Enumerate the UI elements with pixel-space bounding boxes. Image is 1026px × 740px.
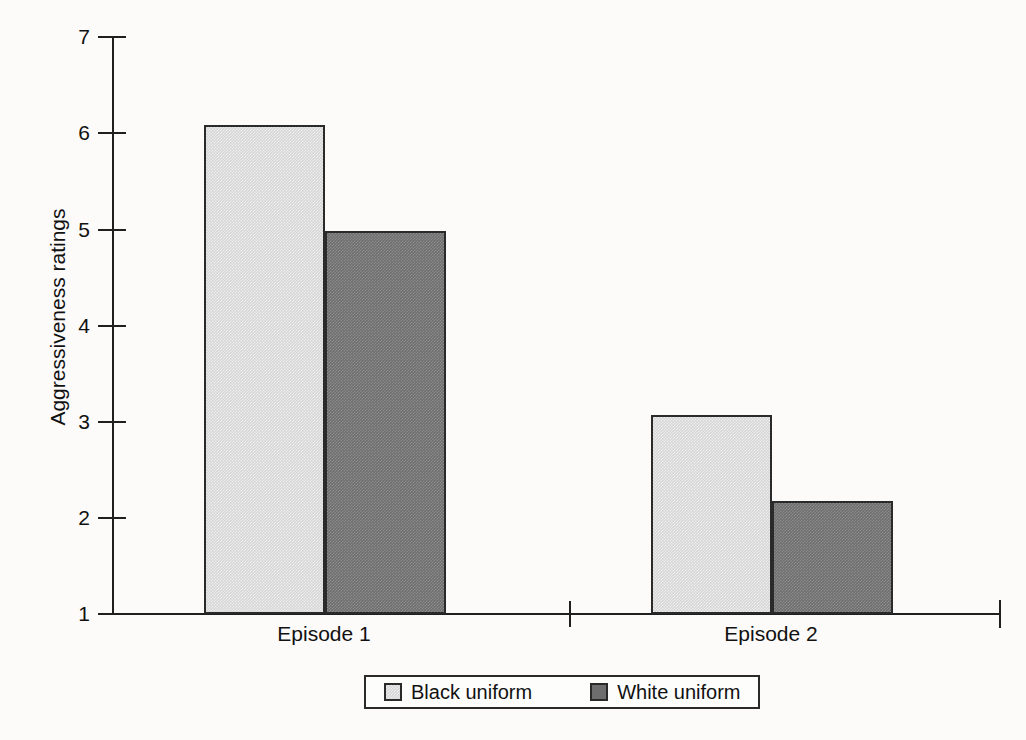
y-tick-mark-1 xyxy=(98,613,126,615)
bar-episode-1-black-uniform[interactable] xyxy=(204,125,325,614)
y-tick-mark-5 xyxy=(98,229,126,231)
y-tick-label-wrap-2: 2 xyxy=(44,507,90,528)
y-tick-mark-7 xyxy=(98,36,126,38)
legend-label-white-uniform: White uniform xyxy=(617,681,740,704)
y-tick-label-wrap-5: 5 xyxy=(44,219,90,240)
bar-chart-figure: Aggressiveness ratings 7 6 5 4 3 2 1 xyxy=(0,0,1026,740)
x-axis-category-separator-tick xyxy=(569,601,571,627)
legend-swatch-black-uniform-icon xyxy=(384,683,402,701)
y-tick-label-2: 2 xyxy=(56,507,90,528)
y-tick-mark-3 xyxy=(98,421,126,423)
legend-entry-white-uniform[interactable]: White uniform xyxy=(590,677,740,707)
y-tick-label-5: 5 xyxy=(56,219,90,240)
bar-episode-2-black-uniform[interactable] xyxy=(651,415,772,614)
bar-episode-2-white-uniform[interactable] xyxy=(772,501,893,614)
y-tick-label-1: 1 xyxy=(56,603,90,624)
y-tick-label-wrap-3: 3 xyxy=(44,411,90,432)
legend-label-black-uniform: Black uniform xyxy=(411,681,532,704)
x-category-label-episode-1: Episode 1 xyxy=(194,622,454,646)
legend-entry-black-uniform[interactable]: Black uniform xyxy=(384,677,532,707)
y-tick-label-wrap-4: 4 xyxy=(44,315,90,336)
x-axis-end-tick xyxy=(999,600,1001,628)
y-tick-mark-6 xyxy=(98,132,126,134)
plot-area: Aggressiveness ratings 7 6 5 4 3 2 1 xyxy=(0,0,1026,740)
bar-episode-1-white-uniform[interactable] xyxy=(325,231,446,614)
y-tick-label-wrap-1: 1 xyxy=(44,603,90,624)
legend: Black uniform White uniform xyxy=(364,675,760,709)
y-tick-mark-4 xyxy=(98,325,126,327)
y-tick-label-4: 4 xyxy=(56,315,90,336)
y-tick-label-wrap-7: 7 xyxy=(44,26,90,47)
y-tick-mark-2 xyxy=(98,517,126,519)
y-tick-label-6: 6 xyxy=(56,122,90,143)
y-tick-label-7: 7 xyxy=(56,26,90,47)
y-tick-label-3: 3 xyxy=(56,411,90,432)
y-tick-label-wrap-6: 6 xyxy=(44,122,90,143)
x-category-label-episode-2: Episode 2 xyxy=(641,622,901,646)
legend-swatch-white-uniform-icon xyxy=(590,683,608,701)
